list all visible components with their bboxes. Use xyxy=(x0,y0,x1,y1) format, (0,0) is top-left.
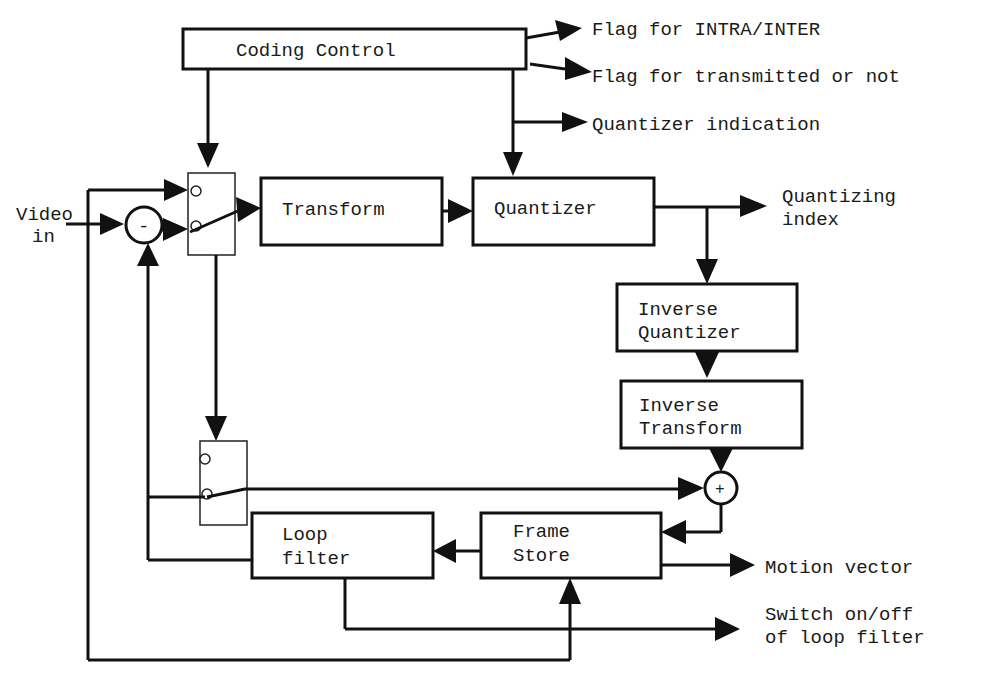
video-in-label-2: in xyxy=(32,226,55,248)
adder-symbol: + xyxy=(715,481,725,499)
arrow-icon xyxy=(740,195,767,217)
arrow-up-icon xyxy=(137,243,159,266)
frame-store-label-2: Store xyxy=(513,545,570,567)
quantizing-index-label-1: Quantizing xyxy=(782,186,896,208)
diagram-svg: Coding Control Flag for INTRA/INTER Flag… xyxy=(0,0,981,676)
arrow-icon xyxy=(565,57,592,80)
quantizer-label: Quantizer xyxy=(494,198,597,220)
inverse-quantizer-label-1: Inverse xyxy=(638,299,718,321)
intra-inter-line xyxy=(526,32,560,38)
arrow-down-icon xyxy=(695,352,719,378)
quantizing-index-label-2: index xyxy=(782,209,839,231)
arrow-down-icon xyxy=(709,448,733,472)
arrow-icon xyxy=(730,553,755,577)
arrow-icon xyxy=(236,197,261,222)
transmitted-flag-label: Flag for transmitted or not xyxy=(592,66,900,88)
arrow-icon xyxy=(448,199,473,223)
transform-label: Transform xyxy=(282,199,385,221)
loop-filter-label-2: filter xyxy=(282,548,350,570)
arrow-icon xyxy=(164,179,188,201)
arrow-left-icon xyxy=(433,539,456,563)
arrow-icon xyxy=(100,213,124,235)
frame-store-label-1: Frame xyxy=(513,521,570,543)
arrow-icon xyxy=(555,20,582,41)
inverse-quantizer-label-2: Quantizer xyxy=(638,322,741,344)
arrow-icon xyxy=(163,218,188,241)
motion-vector-label: Motion vector xyxy=(765,557,913,579)
arrow-left-icon xyxy=(661,520,686,544)
arrow-down-icon xyxy=(503,152,523,176)
switch-loop-label-2: of loop filter xyxy=(765,627,925,649)
intra-inter-flag-label: Flag for INTRA/INTER xyxy=(592,19,820,41)
frame-store-block xyxy=(481,513,661,578)
loop-filter-label-1: Loop xyxy=(282,524,328,546)
arrow-up-icon xyxy=(559,578,581,604)
video-in-label-1: Video xyxy=(16,204,73,226)
intra-inter-switch-2 xyxy=(200,441,247,525)
switch-contact xyxy=(200,454,210,464)
switch-contact xyxy=(191,186,201,196)
inverse-transform-label-2: Transform xyxy=(639,418,742,440)
arrow-icon xyxy=(678,477,704,500)
arrow-down-icon xyxy=(205,416,227,441)
arrow-down-icon xyxy=(696,259,718,284)
encoder-block-diagram: Coding Control Flag for INTRA/INTER Flag… xyxy=(0,0,981,676)
quantizer-indication-label: Quantizer indication xyxy=(592,114,820,136)
subtractor-symbol: - xyxy=(138,216,149,238)
arrow-icon xyxy=(715,617,740,641)
inverse-transform-label-1: Inverse xyxy=(639,395,719,417)
arrow-down-icon xyxy=(197,143,219,168)
coding-control-label: Coding Control xyxy=(236,40,396,62)
switch-loop-label-1: Switch on/off xyxy=(765,604,913,626)
arrow-icon xyxy=(562,112,588,132)
transmitted-line xyxy=(530,64,565,69)
